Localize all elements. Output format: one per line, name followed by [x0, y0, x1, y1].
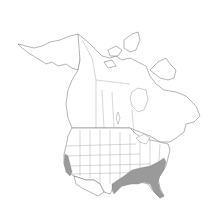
- north-america-map: [0, 0, 213, 213]
- distribution-map: [0, 0, 213, 213]
- baffin-island: [150, 58, 176, 80]
- alaska: [18, 34, 82, 70]
- ellesmere-island: [124, 32, 140, 52]
- arctic-island: [108, 46, 122, 56]
